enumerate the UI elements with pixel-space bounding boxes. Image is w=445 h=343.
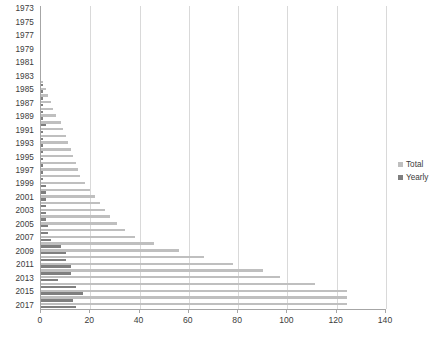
- bar-group: [41, 282, 386, 289]
- bar-group: [41, 80, 386, 87]
- bar-total: [41, 189, 90, 191]
- bar-group: [41, 215, 386, 222]
- bar-total: [41, 222, 117, 224]
- bar-yearly: [41, 198, 46, 200]
- bar-total: [41, 209, 105, 211]
- bar-group: [41, 154, 386, 161]
- legend-label: Total: [406, 160, 423, 169]
- bar-group: [41, 67, 386, 74]
- bar-total: [41, 236, 135, 238]
- bar-yearly: [41, 225, 48, 227]
- bar-group: [41, 248, 386, 255]
- bar-yearly: [41, 265, 71, 267]
- bar-total: [41, 135, 66, 137]
- bar-yearly: [41, 97, 43, 99]
- bar-group: [41, 221, 386, 228]
- bar-yearly: [41, 279, 58, 281]
- legend-swatch-icon: [398, 175, 403, 180]
- x-axis-tick-mark: [40, 310, 41, 313]
- bar-yearly: [41, 151, 43, 153]
- bar-yearly: [41, 259, 66, 261]
- y-axis-tick-label: 2009: [15, 248, 34, 256]
- y-axis-tick-label: 1973: [15, 5, 34, 13]
- bar-yearly: [41, 286, 76, 288]
- bar-total: [41, 202, 100, 204]
- y-axis-tick-label: 1977: [15, 32, 34, 40]
- bar-yearly: [41, 178, 43, 180]
- bar-group: [41, 13, 386, 20]
- bar-group: [41, 174, 386, 181]
- bar-group: [41, 141, 386, 148]
- bar-yearly: [41, 90, 43, 92]
- bar-group: [41, 53, 386, 60]
- bar-total: [41, 303, 347, 305]
- y-axis-tick-label: 2003: [15, 207, 34, 215]
- bar-total: [41, 283, 315, 285]
- bar-total: [41, 296, 347, 298]
- y-axis-label-group: 1973197519771979198119831985198719891991…: [0, 6, 36, 309]
- bar-yearly: [41, 252, 66, 254]
- bar-yearly: [41, 212, 46, 214]
- bar-total: [41, 141, 68, 143]
- x-axis-tick-mark: [139, 310, 140, 313]
- bar-group: [41, 161, 386, 168]
- legend-swatch-icon: [398, 162, 403, 167]
- bar-yearly: [41, 117, 43, 119]
- bar-yearly: [41, 205, 46, 207]
- bar-group: [41, 6, 386, 13]
- y-axis-tick-label: 2011: [16, 261, 34, 269]
- legend-item-total[interactable]: Total: [398, 159, 443, 170]
- bar-yearly: [41, 131, 43, 133]
- bar-group: [41, 208, 386, 215]
- bar-group: [41, 201, 386, 208]
- bar-yearly: [41, 171, 43, 173]
- x-axis-tick-label: 20: [85, 315, 95, 325]
- x-axis-tick-mark: [336, 310, 337, 313]
- bar-total: [41, 276, 280, 278]
- bar-total: [41, 175, 80, 177]
- bar-group: [41, 127, 386, 134]
- bar-group: [41, 235, 386, 242]
- x-axis-tick-label: 140: [378, 315, 392, 325]
- bar-total: [41, 148, 71, 150]
- bar-yearly: [41, 218, 46, 220]
- bar-group: [41, 302, 386, 309]
- bar-group: [41, 100, 386, 107]
- x-axis-tick-label: 60: [183, 315, 193, 325]
- bar-group: [41, 168, 386, 175]
- plot-area: [40, 6, 386, 309]
- bar-total: [41, 128, 63, 130]
- bar-group: [41, 262, 386, 269]
- y-axis-tick-label: 1981: [15, 59, 34, 67]
- y-axis-tick-label: 1995: [15, 154, 34, 162]
- bar-group: [41, 114, 386, 121]
- bar-group: [41, 181, 386, 188]
- bar-group: [41, 296, 386, 303]
- bar-yearly: [41, 124, 46, 126]
- y-axis-tick-label: 1987: [15, 100, 34, 108]
- bar-yearly: [41, 239, 51, 241]
- legend-item-yearly[interactable]: Yearly: [398, 172, 443, 183]
- bar-group: [41, 40, 386, 47]
- bar-group: [41, 289, 386, 296]
- bar-yearly: [41, 84, 43, 86]
- x-axis-tick-label: 0: [38, 315, 43, 325]
- bars-layer: [41, 6, 386, 309]
- bar-total: [41, 229, 125, 231]
- y-axis-tick-label: 2013: [15, 275, 34, 283]
- bar-total: [41, 182, 85, 184]
- bar-total: [41, 269, 263, 271]
- y-axis-tick-label: 1979: [15, 46, 34, 54]
- bar-total: [41, 168, 78, 170]
- y-axis-tick-label: 1997: [15, 167, 34, 175]
- x-axis-tick-label: 80: [232, 315, 242, 325]
- bar-total: [41, 162, 76, 164]
- x-axis-tick-mark: [89, 310, 90, 313]
- bar-group: [41, 228, 386, 235]
- bar-group: [41, 94, 386, 101]
- bar-total: [41, 155, 73, 157]
- bar-group: [41, 242, 386, 249]
- x-axis-tick-group: 020406080100120140: [40, 310, 385, 330]
- y-axis-tick-label: 1991: [15, 127, 34, 135]
- bar-group: [41, 269, 386, 276]
